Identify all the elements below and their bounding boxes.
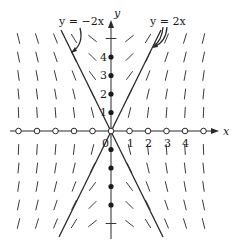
slope-segment <box>18 163 19 173</box>
y-axis-filled-marker <box>108 147 113 152</box>
slope-segment <box>18 71 19 81</box>
x-axis-open-marker <box>182 128 188 134</box>
slope-segment <box>18 182 19 192</box>
x-axis-open-marker <box>127 128 133 134</box>
slope-segment <box>36 219 39 229</box>
slope-segment <box>146 201 150 210</box>
y-axis-filled-marker <box>108 165 113 170</box>
slope-segment <box>203 71 204 81</box>
slope-segment <box>37 108 38 118</box>
slope-segment <box>184 71 186 81</box>
slope-segment <box>89 54 96 61</box>
slope-segment <box>126 54 133 61</box>
x-axis-label: x <box>223 125 230 138</box>
slope-segment <box>90 72 96 80</box>
slope-segment <box>55 89 57 99</box>
slope-segment <box>184 34 187 44</box>
slope-segment <box>203 182 204 192</box>
slope-segment <box>127 72 133 80</box>
y-tick-label-4: 4 <box>100 51 107 64</box>
x-axis-open-marker <box>71 128 77 134</box>
x-axis-open-marker <box>145 128 151 134</box>
slope-segment <box>126 202 133 209</box>
slope-segment <box>184 163 185 173</box>
slope-segment <box>185 108 186 118</box>
slope-segment <box>17 34 19 44</box>
slope-segment <box>146 71 150 80</box>
slope-segment <box>184 89 185 99</box>
slope-segment <box>36 71 38 81</box>
slope-segment <box>165 200 168 209</box>
slope-segment <box>72 71 76 80</box>
slope-segment <box>184 219 187 229</box>
slope-segment <box>54 182 56 192</box>
slope-segment <box>17 219 19 229</box>
slope-segment <box>73 89 75 99</box>
x-axis-open-marker <box>108 128 114 134</box>
label-y-neg-2x: y = −2x <box>58 15 105 28</box>
slope-segment <box>72 201 76 210</box>
slope-segment <box>89 220 97 226</box>
slope-segment <box>18 89 19 99</box>
slope-segment <box>54 52 57 61</box>
slope-segment <box>36 89 37 99</box>
slope-segment <box>203 89 204 99</box>
slope-segment <box>55 163 57 173</box>
slope-segment <box>89 35 97 41</box>
y-tick-label-2: 2 <box>100 88 107 101</box>
slope-segment <box>128 108 130 118</box>
slope-segment <box>184 200 186 210</box>
y-axis-filled-marker <box>108 110 113 115</box>
slope-segment <box>18 200 20 210</box>
slope-segment <box>166 108 167 118</box>
slope-segment <box>71 34 76 42</box>
y-axis-filled-marker <box>108 73 113 78</box>
slope-segment <box>203 52 205 62</box>
slope-segment <box>18 52 20 62</box>
label-y-2x: y = 2x <box>149 15 186 28</box>
x-tick-label-1: 1 <box>127 137 134 150</box>
slope-segment <box>184 52 186 62</box>
slope-segment <box>202 34 204 44</box>
slope-segment <box>126 220 134 226</box>
slope-segment <box>203 163 204 173</box>
slope-segment <box>145 34 150 42</box>
slope-segment <box>54 71 56 81</box>
slope-segment <box>36 52 38 62</box>
slope-segment <box>36 34 39 44</box>
slope-segment <box>166 163 168 173</box>
slope-segment <box>202 219 204 229</box>
slope-segment <box>145 219 150 227</box>
slope-segment <box>73 163 75 173</box>
slope-segment <box>147 163 149 173</box>
slope-segment <box>55 145 56 155</box>
origin-label: 0 <box>102 137 109 150</box>
y-tick-label-1: 1 <box>100 106 107 119</box>
slope-segment <box>37 145 38 155</box>
slope-segment <box>91 108 93 118</box>
x-axis-open-marker <box>90 128 96 134</box>
slope-segment <box>166 89 168 99</box>
y-axis-filled-marker <box>108 184 113 189</box>
slope-segment <box>126 35 134 41</box>
slope-segment <box>71 219 76 227</box>
x-axis-open-marker <box>164 128 170 134</box>
slope-segment <box>165 219 169 228</box>
slope-segment <box>73 145 74 155</box>
y-tick-label-3: 3 <box>100 69 107 82</box>
x-axis-open-marker <box>34 128 40 134</box>
y-axis-filled-marker <box>108 202 113 207</box>
x-axis-open-marker <box>201 128 207 134</box>
slope-segment <box>54 34 58 43</box>
slope-segment <box>36 200 38 210</box>
slope-segment <box>55 108 56 118</box>
slope-segment <box>127 183 133 191</box>
slope-segment <box>165 71 167 81</box>
x-axis-open-marker <box>16 128 22 134</box>
slope-segment <box>146 182 150 191</box>
y-axis-filled-marker <box>108 91 113 96</box>
slope-segment <box>89 202 96 209</box>
slope-segment <box>165 52 168 61</box>
x-tick-label-4: 4 <box>182 137 189 150</box>
slope-segment <box>72 182 76 191</box>
